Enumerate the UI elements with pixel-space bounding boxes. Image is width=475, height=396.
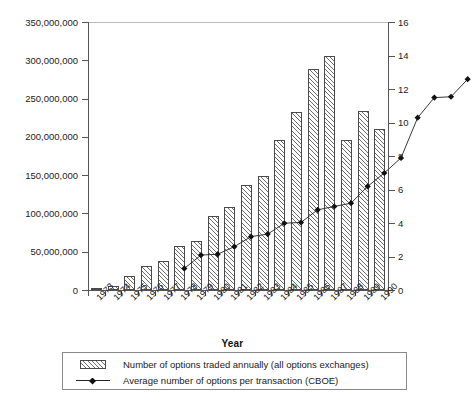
diamond-line-swatch-icon — [63, 376, 123, 385]
line-marker-diamond — [215, 251, 221, 257]
line-series-group — [176, 44, 475, 312]
chart-legend: Number of options traded annually (all o… — [62, 352, 407, 390]
x-tick-label: 1987 — [329, 296, 335, 302]
y-tick-label-right: 10 — [398, 118, 422, 127]
y-tick-left — [82, 22, 88, 23]
x-tick-label: 1990 — [379, 296, 385, 302]
legend-label-line: Average number of options per transactio… — [123, 375, 338, 386]
y-tick-label-left: 100,000,000 — [0, 209, 78, 218]
y-tick-right — [389, 156, 395, 157]
x-axis-title: Year — [0, 338, 465, 349]
y-tick-label-left: 350,000,000 — [0, 18, 78, 27]
y-tick-label-right: 16 — [398, 18, 422, 27]
x-tick-label: 1984 — [279, 296, 285, 302]
x-tick-label: 1983 — [262, 296, 268, 302]
y-tick-label-right: 0 — [398, 286, 422, 295]
y-tick-right — [389, 190, 395, 191]
x-tick-label: 1974 — [112, 296, 118, 302]
x-tick-label: 1982 — [245, 296, 251, 302]
x-tick-label: 1979 — [195, 296, 201, 302]
y-tick-label-right: 4 — [398, 219, 422, 228]
y-tick-right — [389, 89, 395, 90]
x-axis-tick-labels: 1973197419751976197719781979198019811982… — [88, 296, 388, 338]
y-tick-right — [389, 22, 395, 23]
y-tick-label-right: 8 — [398, 152, 422, 161]
y-tick-label-left: 250,000,000 — [0, 94, 78, 103]
y-tick-label-left: 200,000,000 — [0, 132, 78, 141]
x-tick-label: 1978 — [179, 296, 185, 302]
x-tick-label: 1973 — [95, 296, 101, 302]
y-tick-label-right: 6 — [398, 185, 422, 194]
y-tick-label-right: 2 — [398, 252, 422, 261]
y-tick-label-left: 150,000,000 — [0, 171, 78, 180]
y-tick-right — [389, 223, 395, 224]
x-tick-label: 1986 — [312, 296, 318, 302]
x-tick-label: 1988 — [345, 296, 351, 302]
y-axis-left — [88, 22, 89, 291]
y-tick-label-right: 14 — [398, 51, 422, 60]
x-tick-label: 1985 — [295, 296, 301, 302]
x-tick-label: 1976 — [145, 296, 151, 302]
hatched-bar-swatch-icon — [63, 360, 123, 369]
y-tick-left — [82, 175, 88, 176]
y-tick-left — [82, 252, 88, 253]
y-tick-right — [389, 257, 395, 258]
line-marker-diamond — [265, 231, 271, 237]
line-path — [184, 79, 467, 268]
y-tick-left — [82, 137, 88, 138]
y-tick-left — [82, 60, 88, 61]
plot-area — [88, 22, 388, 290]
line-marker-diamond — [331, 203, 337, 209]
axis-top-rule — [88, 22, 389, 23]
y-tick-right — [389, 56, 395, 57]
legend-label-bars: Number of options traded annually (all o… — [123, 359, 369, 370]
line-marker-diamond — [281, 220, 287, 226]
x-tick-label: 1980 — [212, 296, 218, 302]
x-tick-label: 1989 — [362, 296, 368, 302]
x-tick-label: 1975 — [129, 296, 135, 302]
y-tick-label-left: 300,000,000 — [0, 56, 78, 65]
y-tick-left — [82, 99, 88, 100]
x-tick-label: 1977 — [162, 296, 168, 302]
y-tick-label-right: 12 — [398, 85, 422, 94]
line-marker-diamond — [231, 244, 237, 250]
legend-item-bars: Number of options traded annually (all o… — [63, 356, 406, 373]
y-tick-left — [82, 213, 88, 214]
x-tick-label: 1981 — [229, 296, 235, 302]
y-tick-right — [389, 123, 395, 124]
legend-item-line: Average number of options per transactio… — [63, 372, 406, 389]
y-tick-label-left: 0 — [0, 286, 78, 295]
line-marker-diamond — [248, 234, 254, 240]
y-tick-label-left: 50,000,000 — [0, 247, 78, 256]
